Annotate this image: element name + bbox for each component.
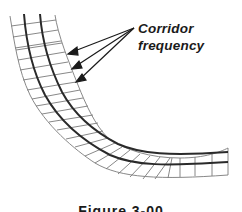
label-line-2: frequency bbox=[138, 37, 204, 54]
corridor-frequency-label: Corridor frequency bbox=[138, 20, 204, 54]
annotation-arrows bbox=[68, 28, 134, 82]
label-line-1: Corridor bbox=[138, 20, 204, 37]
figure-caption: Figure 3-00 bbox=[0, 203, 242, 212]
corridor-diagram bbox=[0, 0, 242, 212]
corridor-figure: Corridor frequency Figure 3-00 bbox=[0, 0, 242, 212]
